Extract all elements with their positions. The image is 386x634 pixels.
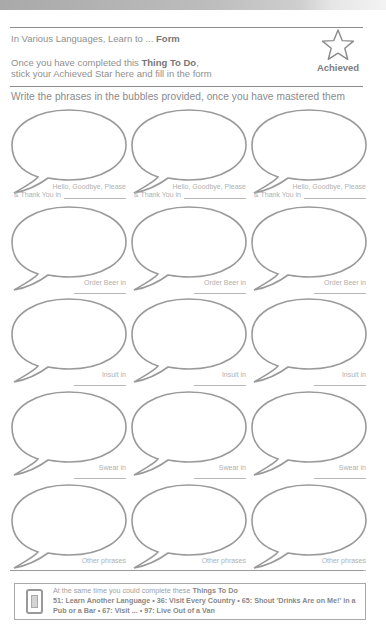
bubble-label: Insult in bbox=[102, 371, 126, 380]
speech-bubble-swear-1[interactable]: Swear in bbox=[8, 387, 128, 479]
speech-bubble-insult-3[interactable]: Insult in bbox=[248, 294, 368, 386]
bubble-label: Other phrases bbox=[322, 557, 366, 566]
intro-prefix: Once you have completed this bbox=[11, 57, 141, 68]
page-title: In Various Languages, Learn to ... Form bbox=[11, 33, 180, 44]
bubble-label: Hello, Goodbye, Please bbox=[292, 183, 366, 192]
bubble-label: Swear in bbox=[99, 464, 126, 473]
answer-line[interactable] bbox=[74, 478, 126, 479]
speech-bubble-beer-3[interactable]: Order Beer in bbox=[248, 202, 368, 294]
instructions-text: Write the phrases in the bubbles provide… bbox=[11, 91, 345, 102]
speech-bubble-hello-2[interactable]: Hello, Goodbye, Please & Thank You in bbox=[128, 105, 248, 197]
bubble-label-line2: & Thank You in bbox=[14, 191, 61, 198]
intro-line2: stick your Achieved Star here and fill i… bbox=[11, 68, 212, 79]
bubble-label: Order Beer in bbox=[84, 279, 126, 288]
book-page bbox=[31, 595, 38, 608]
top-image-strip bbox=[0, 0, 386, 10]
related-intro: At the same time you could complete thes… bbox=[53, 586, 192, 595]
answer-line[interactable] bbox=[184, 198, 246, 199]
bubble-label: Order Beer in bbox=[324, 279, 366, 288]
star-outline-icon bbox=[321, 28, 355, 62]
book-icon bbox=[26, 589, 43, 614]
title-prefix: In Various Languages, Learn to ... bbox=[11, 33, 156, 44]
answer-line[interactable] bbox=[194, 478, 246, 479]
related-things-box: At the same time you could complete thes… bbox=[14, 583, 366, 620]
bubble-label: Hello, Goodbye, Please bbox=[52, 183, 126, 192]
bubble-label-line2: & Thank You in bbox=[254, 191, 301, 198]
speech-bubble-insult-2[interactable]: Insult in bbox=[128, 294, 248, 386]
bubble-label-line2: & Thank You in bbox=[134, 191, 181, 198]
answer-line[interactable] bbox=[74, 385, 126, 386]
bubble-label: Insult in bbox=[222, 371, 246, 380]
top-rule bbox=[10, 27, 363, 28]
bubble-label: Swear in bbox=[219, 464, 246, 473]
speech-bubble-other-3[interactable]: Other phrases bbox=[248, 480, 368, 572]
speech-bubble-hello-3[interactable]: Hello, Goodbye, Please & Thank You in bbox=[248, 105, 368, 197]
achieved-label: Achieved bbox=[312, 62, 364, 73]
bubble-label: Order Beer in bbox=[204, 279, 246, 288]
answer-line[interactable] bbox=[64, 198, 126, 199]
header-bottom-rule bbox=[10, 86, 363, 87]
bubble-label: Other phrases bbox=[202, 557, 246, 566]
speech-bubble-other-1[interactable]: Other phrases bbox=[8, 480, 128, 572]
answer-line[interactable] bbox=[314, 478, 366, 479]
speech-bubble-swear-2[interactable]: Swear in bbox=[128, 387, 248, 479]
intro-suffix: , bbox=[196, 57, 199, 68]
achieved-star-area[interactable]: Achieved bbox=[312, 28, 364, 78]
related-intro-bold: Things To Do bbox=[192, 586, 237, 595]
speech-bubble-swear-3[interactable]: Swear in bbox=[248, 387, 368, 479]
bubble-label: Swear in bbox=[339, 464, 366, 473]
speech-bubble-insult-1[interactable]: Insult in bbox=[8, 294, 128, 386]
bubble-label: Insult in bbox=[342, 371, 366, 380]
speech-bubble-hello-1[interactable]: Hello, Goodbye, Please & Thank You in bbox=[8, 105, 128, 197]
related-things-links[interactable]: 51: Learn Another Language • 36: Visit E… bbox=[53, 596, 356, 615]
intro-bold: Thing To Do bbox=[141, 57, 196, 68]
speech-bubble-beer-2[interactable]: Order Beer in bbox=[128, 202, 248, 294]
answer-line[interactable] bbox=[194, 385, 246, 386]
bubble-label: Other phrases bbox=[82, 557, 126, 566]
speech-bubble-beer-1[interactable]: Order Beer in bbox=[8, 202, 128, 294]
speech-bubble-other-2[interactable]: Other phrases bbox=[128, 480, 248, 572]
footer-rule bbox=[10, 570, 363, 571]
answer-line[interactable] bbox=[314, 385, 366, 386]
title-bold: Form bbox=[156, 33, 180, 44]
bubble-label: Hello, Goodbye, Please bbox=[172, 183, 246, 192]
answer-line[interactable] bbox=[304, 198, 366, 199]
related-things-text: At the same time you could complete thes… bbox=[53, 586, 363, 616]
intro-text: Once you have completed this Thing To Do… bbox=[11, 57, 212, 79]
